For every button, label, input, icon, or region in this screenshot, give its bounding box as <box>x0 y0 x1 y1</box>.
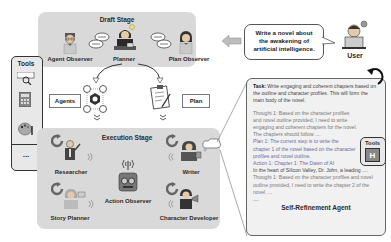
planner-icon <box>113 24 137 54</box>
chevron-down-icon <box>93 114 101 121</box>
execution-stage-title: Execution Stage <box>97 134 157 141</box>
palette-icon[interactable] <box>18 122 34 136</box>
image-search-icon[interactable] <box>17 72 35 85</box>
writer-label: Writer <box>176 169 206 175</box>
connector-lines <box>215 78 250 238</box>
writer-icon <box>178 140 202 162</box>
task-text: Write engaging and coherent chapters bas… <box>253 83 376 103</box>
signal-waves-icon <box>87 153 93 161</box>
user-icon <box>340 20 370 50</box>
task-block: Task: Write engaging and coherent chapte… <box>253 83 379 105</box>
plan-observer-icon <box>178 30 194 54</box>
story-planner-icon <box>62 188 86 210</box>
signal-waves-icon <box>168 200 174 208</box>
chat-bubbles-icon <box>150 32 172 50</box>
plan-clipboard-icon <box>150 84 172 110</box>
bubble-tail <box>322 36 336 46</box>
action-observer-icon <box>118 172 138 192</box>
signal-waves-icon <box>88 200 94 208</box>
agent-observer-icon <box>62 32 78 54</box>
agent-observer-label: Agent Observer <box>44 56 96 62</box>
more-tools-button[interactable]: ... <box>13 150 39 159</box>
action-observer-label: Action Observer <box>100 198 156 204</box>
tools-right-title: Tools <box>361 140 384 146</box>
agents-label-box: Agents <box>49 94 81 108</box>
loop-arrow-icon <box>366 66 386 86</box>
character-developer-icon <box>176 188 200 210</box>
thought-1: Thought 1: Based on the character profil… <box>253 110 379 139</box>
action-1-continuation: In the heart of Silicon Valley, Dr. John… <box>253 167 379 174</box>
plan-observer-label: Plan Observer <box>166 56 212 62</box>
story-planner-label: Story Planner <box>48 215 92 221</box>
chat-bubbles-icon <box>88 32 110 50</box>
signal-waves-icon <box>168 153 174 161</box>
chevron-down-icon <box>159 114 167 121</box>
thought-2: Thought 1: Based on the character profil… <box>253 174 379 196</box>
character-developer-label: Character Developer <box>158 215 220 221</box>
draft-stage-title: Draft Stage <box>82 16 152 23</box>
arrow-left-icon <box>222 35 242 47</box>
tool-h-icon[interactable]: H <box>365 148 380 162</box>
planner-arrows <box>90 62 170 86</box>
agents-network-icon <box>82 84 108 114</box>
ellipsis: .... <box>253 196 379 203</box>
calculator-icon[interactable] <box>19 92 31 107</box>
user-prompt-bubble: Write a novel about the awakening of art… <box>244 24 324 60</box>
plan-label-box: Plan <box>182 94 210 108</box>
broadcast-icon <box>120 158 136 170</box>
researcher-label: Researcher <box>50 169 92 175</box>
user-label: User <box>343 52 367 59</box>
task-key: Task: <box>253 83 266 89</box>
researcher-icon <box>62 140 82 162</box>
tools-title: Tools <box>13 60 39 67</box>
self-refinement-title: Self-Refinement Agent <box>253 204 379 211</box>
